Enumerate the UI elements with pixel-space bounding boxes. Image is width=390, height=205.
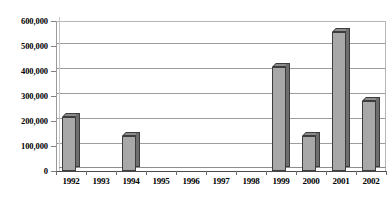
x-axis-tick-label-2001: 2001 (326, 176, 356, 186)
bar-side-face (136, 132, 140, 167)
bar-front-face (362, 101, 376, 171)
bar-2002[interactable] (362, 97, 376, 171)
y-axis-tick-label: 400,000 (21, 66, 48, 76)
x-axis-tick-mark (206, 171, 207, 175)
x-axis-tick-mark (86, 171, 87, 175)
x-axis-tick-mark (296, 171, 297, 175)
x-axis-line (56, 171, 386, 172)
x-axis-tick-mark (266, 171, 267, 175)
bar-front-face (332, 32, 346, 171)
bar-side-face (76, 113, 80, 167)
y-axis-tick-label: 100,000 (21, 141, 48, 151)
x-axis-tick-mark (386, 171, 387, 175)
x-axis-labels: 1992 1993 1994 1995 1996 1997 1998 1999 … (56, 176, 386, 196)
bar-side-face (346, 28, 350, 167)
bar-1999[interactable] (272, 63, 286, 171)
bar-front-face (62, 117, 76, 171)
bar-1994[interactable] (122, 132, 136, 171)
x-axis-tick-label-1998: 1998 (236, 176, 266, 186)
y-axis-tick-label: 300,000 (21, 91, 48, 101)
x-axis-tick-label-1994: 1994 (116, 176, 146, 186)
bar-side-face (376, 97, 380, 167)
y-axis-tick-label: 0 (44, 166, 48, 176)
bar-series (56, 0, 386, 205)
y-axis-labels: 600,000 500,000 400,000 300,000 200,000 … (0, 0, 50, 205)
x-axis-tick-mark (116, 171, 117, 175)
bar-chart: 600,000 500,000 400,000 300,000 200,000 … (0, 0, 390, 205)
x-axis-tick-label-1997: 1997 (206, 176, 236, 186)
bar-side-face (316, 132, 320, 167)
bar-1992[interactable] (62, 113, 76, 171)
x-axis-tick-label-2002: 2002 (356, 176, 386, 186)
y-axis-tick-label: 200,000 (21, 116, 48, 126)
x-axis-tick-mark (236, 171, 237, 175)
bar-side-face (286, 63, 290, 167)
x-axis-tick-label-2000: 2000 (296, 176, 326, 186)
x-axis-tick-mark (326, 171, 327, 175)
x-axis-tick-mark (56, 171, 57, 175)
bar-front-face (302, 136, 316, 171)
bar-front-face (272, 67, 286, 171)
x-axis-tick-label-1995: 1995 (146, 176, 176, 186)
x-axis-tick-mark (176, 171, 177, 175)
x-axis-tick-label-1999: 1999 (266, 176, 296, 186)
x-axis-tick-label-1993: 1993 (86, 176, 116, 186)
x-axis-tick-mark (356, 171, 357, 175)
bar-front-face (122, 136, 136, 171)
y-axis-tick-label: 600,000 (21, 16, 48, 26)
y-axis-tick-label: 500,000 (21, 41, 48, 51)
x-axis-tick-mark (146, 171, 147, 175)
bar-2000[interactable] (302, 132, 316, 171)
x-axis-tick-label-1996: 1996 (176, 176, 206, 186)
x-axis-tick-label-1992: 1992 (56, 176, 86, 186)
bar-2001[interactable] (332, 28, 346, 171)
